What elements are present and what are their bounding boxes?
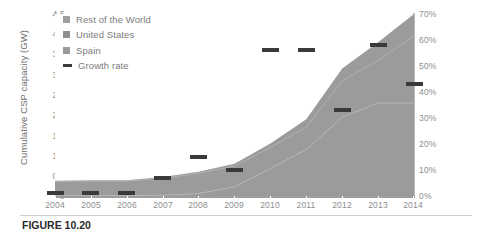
x-tick [91,196,92,201]
x-tick-label: 2012 [322,200,362,210]
x-tick-label: 2004 [35,200,75,210]
x-tick [342,196,343,201]
x-tick-label: 2013 [358,200,398,210]
growth-rate-marker [118,191,135,195]
growth-rate-marker [370,43,387,47]
growth-rate-marker [82,191,99,195]
y2-tick-label: 10% [419,165,437,175]
legend-item-spain[interactable]: Spain [63,44,151,56]
growth-rate-marker [226,168,243,172]
legend-swatch-icon [63,31,70,38]
x-tick [270,196,271,201]
chart-legend: Rest of the World United States Spain Gr… [63,13,151,72]
x-tick [198,196,199,201]
growth-rate-marker [190,155,207,159]
figure-caption-label: FIGURE 10.20 [22,219,91,231]
legend-label: Rest of the World [76,14,151,25]
legend-item-united-states[interactable]: United States [63,29,151,41]
y2-tick-label: 60% [419,35,437,45]
x-axis-line [55,196,415,198]
legend-label: Spain [76,45,101,56]
x-tick-label: 2007 [143,200,183,210]
growth-rate-marker [406,82,423,86]
growth-rate-marker [154,176,171,180]
legend-item-growth-rate[interactable]: Growth rate [63,60,151,72]
x-tick-label: 2010 [250,200,290,210]
x-tick [306,196,307,201]
legend-swatch-icon [63,16,70,23]
legend-label: United States [76,29,134,40]
growth-rate-marker [298,48,315,52]
x-tick [127,196,128,201]
x-tick-label: 2005 [71,200,111,210]
y2-tick-label: 30% [419,113,437,123]
legend-item-rest-of-the-world[interactable]: Rest of the World [63,13,151,25]
legend-dash-icon [63,64,72,67]
x-tick-label: 2014 [393,200,433,210]
x-tick-label: 2009 [214,200,254,210]
figure-container: Cumulative CSP capacity (GW) 4.5 4.0 3.5… [0,0,483,233]
y2-tick-label: 20% [419,139,437,149]
y2-tick-label: 40% [419,87,437,97]
x-tick-label: 2006 [107,200,147,210]
caption-divider [20,215,472,216]
y2-tick-label: 50% [419,61,437,71]
x-tick [163,196,164,201]
x-tick [234,196,235,201]
legend-swatch-icon [63,47,70,54]
x-tick [55,196,56,201]
growth-rate-marker [262,48,279,52]
y-axis-title: Cumulative CSP capacity (GW) [18,8,29,188]
y2-tick-label: 70% [419,9,437,19]
growth-rate-marker [334,108,351,112]
growth-rate-marker [47,191,64,195]
figure-caption: FIGURE 10.20 [22,219,477,231]
x-tick-label: 2008 [178,200,218,210]
x-tick-label: 2011 [286,200,326,210]
legend-label: Growth rate [78,60,129,71]
x-tick [413,196,414,201]
x-tick [378,196,379,201]
